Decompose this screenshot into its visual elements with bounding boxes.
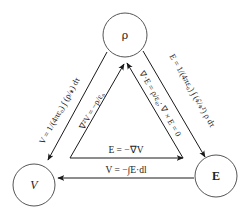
node-v: V: [13, 164, 55, 206]
node-e-label: E: [212, 169, 220, 183]
label-right-inner: ∇·E = ρ/ε₀; ∇ × E = 0: [137, 68, 183, 138]
node-rho: ρ: [103, 13, 147, 57]
node-rho-label: ρ: [122, 29, 128, 42]
electrostatics-triangle-diagram: ρ V E V = 1/(4πε₀) ∫ (ρ/𝓻) dτ ∇²V = −ρ/ε…: [0, 0, 249, 217]
edge-e-to-rho: [127, 63, 183, 158]
label-bottom-outer: V = −∫E·dl: [105, 165, 146, 176]
label-bottom-inner: E = −∇V: [108, 145, 143, 155]
label-left-outer: V = 1/(4πε₀) ∫ (ρ/𝓻) dτ: [37, 75, 83, 146]
label-left-inner: ∇²V = −ρ/ε₀: [76, 90, 106, 132]
node-e: E: [195, 155, 237, 197]
